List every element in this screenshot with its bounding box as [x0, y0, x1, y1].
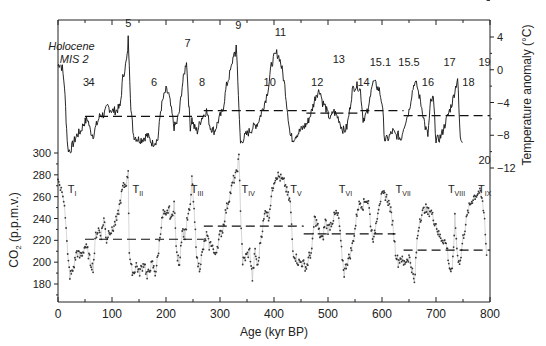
temp-tick-label: 4 — [497, 31, 503, 43]
temperature-line — [58, 36, 462, 153]
right-y-axis-label: Temperature anomaly (°C) — [520, 25, 534, 166]
co2-tick-label: 200 — [33, 256, 51, 268]
mis-stage-label: 9 — [235, 19, 241, 31]
mis-stage-label: Holocene — [48, 40, 94, 52]
temperature-series — [58, 36, 490, 153]
mis-stage-label: 10 — [264, 76, 276, 88]
x-tick-label: 700 — [426, 307, 446, 321]
left-y-axis-label: CO2 (p.p.m.v.) — [7, 192, 23, 268]
termination-label: TI — [68, 183, 77, 197]
termination-label: TVI — [339, 183, 352, 197]
mis-stage-label: 11 — [275, 26, 286, 38]
mis-stage-label: 5 — [125, 17, 131, 29]
temp-tick-label: −4 — [497, 97, 510, 109]
termination-label: TVIII — [448, 183, 465, 197]
co2-tick-label: 280 — [33, 169, 51, 181]
mis-stage-label: 8 — [199, 76, 205, 88]
mis-stage-label: 18 — [462, 76, 474, 88]
mis-stage-label: 14 — [358, 76, 370, 88]
temp-tick-label: −8 — [497, 129, 510, 141]
climate-chart: HoloceneMIS 23456789101112131415.115.516… — [0, 0, 546, 346]
x-tick-label: 600 — [372, 307, 392, 321]
co2-tick-label: 220 — [33, 234, 51, 246]
x-tick-label: 100 — [102, 307, 122, 321]
plot-frame — [58, 20, 490, 25]
co2-tick-label: 300 — [33, 147, 51, 159]
termination-label: TII — [133, 183, 144, 197]
mis-stage-label: 12 — [311, 76, 323, 88]
mis-stage-label: 19 — [478, 56, 490, 68]
co2-tick-label: 260 — [33, 191, 51, 203]
termination-label: TV — [290, 183, 302, 197]
x-tick-label: 200 — [156, 307, 176, 321]
co2-connector — [58, 154, 487, 282]
x-tick-label: 800 — [480, 307, 500, 321]
co2-tick-label: 240 — [33, 213, 51, 225]
mis-stage-label: 15.5 — [398, 56, 419, 68]
termination-label: TVII — [396, 183, 411, 197]
temp-tick-label: −12 — [497, 162, 516, 174]
mis-stage-label: 16 — [422, 76, 434, 88]
mis-stage-label: 13 — [333, 53, 345, 65]
co2-series — [57, 0, 490, 283]
x-tick-label: 400 — [264, 307, 284, 321]
x-tick-label: 0 — [55, 307, 62, 321]
mis-stage-label: 7 — [185, 37, 191, 49]
co2-tick-label: 180 — [33, 278, 51, 290]
termination-label: TIV — [242, 183, 256, 197]
mis-stage-label: 20 — [478, 154, 490, 166]
temp-tick-label: 0 — [497, 64, 503, 76]
x-axis-label: Age (kyr BP) — [240, 325, 308, 339]
mis-stage-label: 4 — [88, 76, 94, 88]
x-tick-label: 500 — [318, 307, 338, 321]
mis-stage-label: MIS 2 — [60, 53, 89, 65]
mis-stage-label: 6 — [151, 76, 157, 88]
mis-stage-label: 17 — [443, 56, 455, 68]
mis-stage-label: 15.1 — [370, 56, 391, 68]
termination-label: TIII — [191, 183, 204, 197]
x-tick-label: 300 — [210, 307, 230, 321]
